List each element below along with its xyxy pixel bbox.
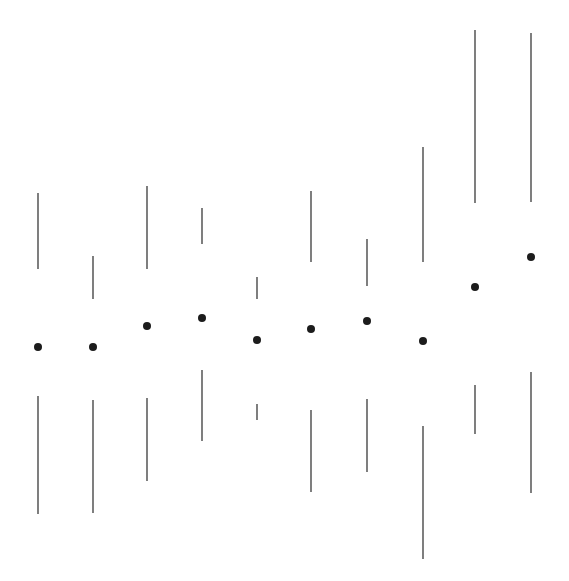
category-group-10 [527,33,535,493]
category-group-7 [363,239,371,472]
median-dot [253,336,261,344]
category-group-2 [89,256,97,513]
quartile-plot [0,0,569,581]
median-dot [307,325,315,333]
category-group-9 [471,30,479,434]
category-group-8 [419,147,427,559]
category-group-3 [143,186,151,481]
median-dot [198,314,206,322]
median-dot [471,283,479,291]
category-group-6 [307,191,315,492]
median-dot [143,322,151,330]
median-dot [89,343,97,351]
median-dot [419,337,427,345]
category-group-5 [253,277,261,420]
median-dot [363,317,371,325]
median-dot [34,343,42,351]
median-dot [527,253,535,261]
category-group-1 [34,193,42,514]
category-group-4 [198,208,206,441]
